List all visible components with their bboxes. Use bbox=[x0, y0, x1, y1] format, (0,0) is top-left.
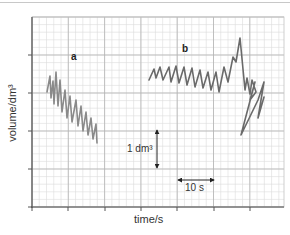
breathing-volume-chart bbox=[0, 0, 290, 235]
time-scale-label: 10 s bbox=[185, 182, 204, 193]
grid-minor bbox=[32, 17, 284, 207]
volume-scale-label: 1 dm³ bbox=[127, 143, 153, 154]
scale-bars bbox=[157, 130, 214, 180]
x-axis-label: time/s bbox=[134, 213, 163, 225]
y-axis-label: volume/dm³ bbox=[6, 84, 18, 141]
series-label-b: b bbox=[182, 43, 188, 54]
series-label-a: a bbox=[71, 51, 77, 62]
grid-major bbox=[32, 17, 284, 207]
